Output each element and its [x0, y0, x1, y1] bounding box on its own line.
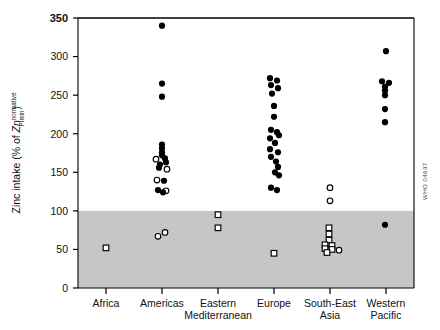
x-category-label: South-East: [304, 297, 356, 309]
who-figure-credit: WHO 04637: [421, 162, 428, 200]
data-point-filled-circle: [161, 178, 167, 184]
data-point-filled-circle: [382, 92, 388, 98]
data-point-open-circle: [336, 247, 342, 253]
data-point-open-circle: [327, 185, 333, 191]
data-point-filled-circle: [382, 119, 388, 125]
y-tick-label: 350: [50, 12, 68, 24]
data-point-open-square: [326, 231, 332, 237]
data-point-filled-circle: [276, 132, 282, 138]
data-point-filled-circle: [382, 222, 388, 228]
x-category-label: Americas: [140, 297, 184, 309]
data-point-filled-circle: [268, 185, 274, 191]
data-point-open-square: [271, 250, 277, 256]
data-point-filled-circle: [379, 78, 385, 84]
x-category-label: Europe: [257, 297, 291, 309]
data-point-open-circle: [164, 166, 170, 172]
data-point-open-circle: [155, 234, 161, 240]
shaded-deficiency-band: [78, 211, 414, 288]
data-point-filled-circle: [269, 91, 275, 97]
data-point-open-square: [215, 212, 221, 218]
data-point-filled-circle: [274, 77, 280, 83]
deficiency-band-rect: [78, 211, 414, 288]
data-point-open-square: [326, 225, 332, 231]
y-tick-label: 150: [50, 166, 68, 178]
data-point-filled-circle: [273, 158, 279, 164]
data-point-open-circle: [327, 198, 333, 204]
x-category-label: Asia: [320, 309, 341, 321]
data-point-open-square: [324, 250, 330, 256]
data-point-filled-circle: [275, 85, 281, 91]
data-point-filled-circle: [382, 106, 388, 112]
data-point-open-circle: [153, 156, 159, 162]
series-africa: [103, 245, 109, 251]
data-point-filled-circle: [268, 82, 274, 88]
data-point-filled-circle: [383, 48, 389, 54]
data-point-filled-circle: [267, 146, 273, 152]
data-point-filled-circle: [271, 103, 277, 109]
data-point-filled-circle: [276, 172, 282, 178]
x-category-label: Pacific: [371, 309, 402, 321]
data-point-filled-circle: [275, 164, 281, 170]
data-point-filled-circle: [272, 140, 278, 146]
data-point-filled-circle: [159, 23, 165, 29]
y-tick-label: 50: [56, 243, 68, 255]
y-tick-label: 0: [62, 282, 68, 294]
data-point-filled-circle: [268, 127, 274, 133]
y-tick-label: 300: [50, 50, 68, 62]
data-point-open-circle: [162, 230, 168, 236]
y-tick-label: 200: [50, 128, 68, 140]
data-point-filled-circle: [274, 187, 280, 193]
x-category-label: Eastern: [200, 297, 236, 309]
data-point-open-square: [103, 245, 109, 251]
data-point-filled-circle: [163, 159, 169, 165]
data-point-filled-circle: [156, 165, 162, 171]
data-point-filled-circle: [267, 75, 273, 81]
data-point-filled-circle: [159, 94, 165, 100]
zinc-intake-scatter-figure: 050100150200250300350 Zinc intake (% of …: [0, 0, 440, 330]
x-category-label: Mediterranean: [184, 309, 252, 321]
data-point-open-square: [215, 225, 221, 231]
x-category-label: Africa: [93, 297, 120, 309]
data-point-filled-circle: [159, 80, 165, 86]
data-point-open-circle: [154, 177, 160, 183]
y-tick-label: 100: [50, 205, 68, 217]
data-point-filled-circle: [275, 149, 281, 155]
data-point-filled-circle: [268, 154, 274, 160]
figure-credit: WHO 04637: [421, 162, 428, 200]
data-point-filled-circle: [267, 135, 273, 141]
data-point-filled-circle: [160, 189, 166, 195]
data-point-filled-circle: [271, 114, 277, 120]
y-tick-label: 250: [50, 89, 68, 101]
x-category-label: Western: [367, 297, 406, 309]
chart-canvas: 050100150200250300350 Zinc intake (% of …: [0, 0, 440, 330]
